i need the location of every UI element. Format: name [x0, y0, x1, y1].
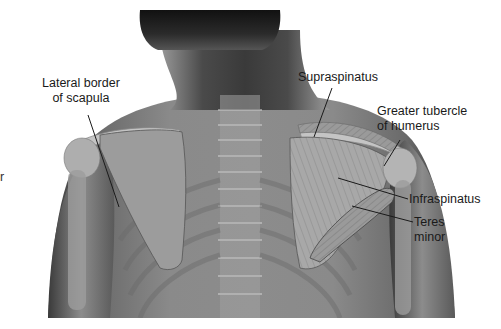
label-supraspinatus: Supraspinatus: [298, 70, 378, 85]
spine: [218, 95, 262, 320]
left-humerus: [68, 170, 86, 310]
anatomy-illustration: [0, 0, 501, 329]
head-shape: [140, 10, 281, 50]
anatomy-figure: r Lateral border of scapula Supraspinatu…: [0, 0, 501, 329]
label-infraspinatus: Infraspinatus: [409, 192, 481, 207]
label-teres-minor: Teres minor: [414, 215, 445, 245]
label-greater-tubercle-of-humerus: Greater tubercle of humerus: [377, 104, 467, 134]
clipped-label-fragment: r: [0, 170, 4, 184]
label-lateral-border-of-scapula: Lateral border of scapula: [42, 76, 120, 106]
